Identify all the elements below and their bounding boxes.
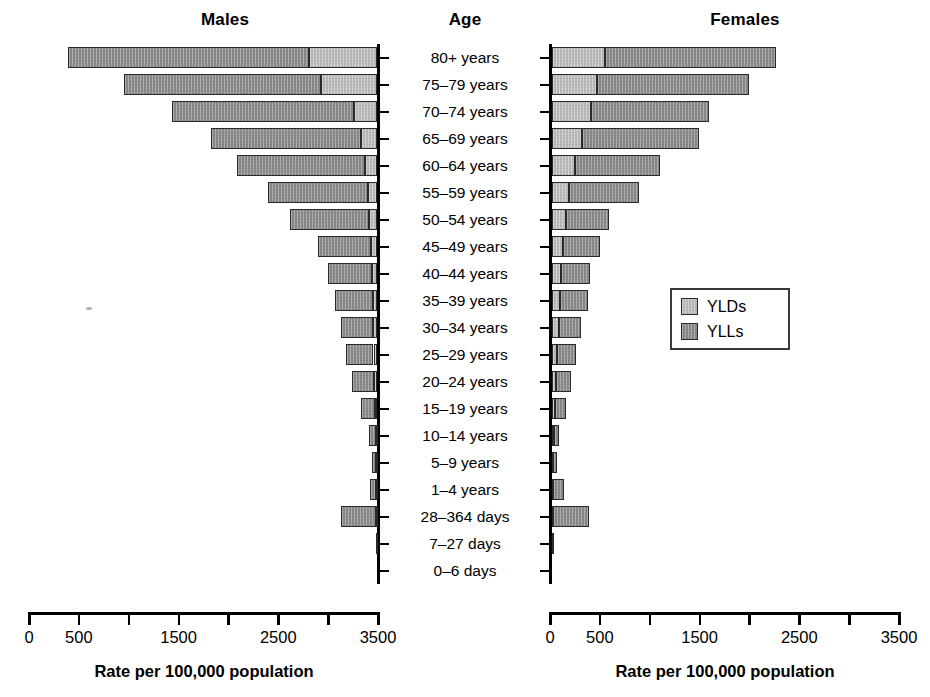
males-axis-tick-label: 2500 [243, 628, 313, 647]
age-group-label: 7–27 days [381, 530, 549, 557]
males-bar-segment-ylls [369, 425, 376, 446]
age-group-label: 1–4 years [381, 476, 549, 503]
males-bar-row [28, 503, 380, 530]
males-bar-segment-ylds [365, 155, 377, 176]
females-bar-segment-ylls [554, 425, 559, 446]
age-category-labels: 80+ years75–79 years70–74 years65–69 yea… [381, 44, 549, 584]
males-bar-row [28, 233, 380, 260]
males-bar-segment-ylls [237, 155, 365, 176]
males-bar-segment-ylds [376, 479, 378, 500]
males-bar-panel [28, 44, 380, 584]
males-bar-segment-ylls [335, 290, 373, 311]
females-bar-row [549, 233, 901, 260]
legend-swatch-ylls-icon [681, 323, 698, 340]
males-bar-row [28, 260, 380, 287]
age-group-label: 25–29 years [381, 341, 549, 368]
females-bar-segment-ylls [553, 452, 556, 473]
females-axis-tick [549, 612, 552, 625]
males-bar-segment-ylds [373, 317, 377, 338]
males-bar-segment-ylds [376, 425, 378, 446]
females-axis-tick [848, 612, 851, 625]
females-category-tick [540, 219, 549, 222]
males-bar-segment-ylls [290, 209, 369, 230]
females-bar-segment-ylls [553, 506, 589, 527]
males-bar-segment-ylls [328, 263, 372, 284]
females-category-tick [540, 84, 549, 87]
females-category-tick [540, 462, 549, 465]
males-axis-tick [128, 612, 131, 625]
females-bar-row [549, 368, 901, 395]
legend-label-ylls: YLLs [707, 321, 743, 343]
females-category-tick [540, 273, 549, 276]
males-bar-segment-ylds [309, 47, 377, 68]
males-bar-segment-ylds [373, 290, 377, 311]
females-bar-segment-ylls [557, 344, 576, 365]
males-axis-tick [277, 612, 280, 625]
males-value-axis: 3500250015005000 [28, 612, 380, 630]
males-bar-segment-ylls [361, 398, 375, 419]
legend-label-ylds: YLDs [707, 296, 746, 318]
males-bar-row [28, 71, 380, 98]
females-bar-segment-ylls [566, 209, 609, 230]
males-bar-segment-ylls [172, 101, 354, 122]
females-bar-segment-ylds [552, 101, 591, 122]
females-bar-segment-ylls [552, 533, 554, 554]
females-bar-segment-ylls [563, 236, 600, 257]
males-bar-segment-ylds [374, 344, 377, 365]
females-bar-segment-ylds [552, 263, 561, 284]
males-bar-row [28, 476, 380, 503]
females-bar-segment-ylls [591, 101, 709, 122]
males-bar-segment-ylds [369, 209, 377, 230]
females-bar-segment-ylds [552, 209, 566, 230]
females-category-tick [540, 57, 549, 60]
females-bar-row [549, 206, 901, 233]
males-bar-segment-ylds [354, 101, 377, 122]
males-bar-segment-ylds [376, 506, 378, 527]
age-group-label: 80+ years [381, 44, 549, 71]
males-bar-segment-ylds [375, 398, 377, 419]
legend: YLDs YLLs [670, 288, 790, 350]
males-bar-segment-ylls [352, 371, 374, 392]
females-bar-row [549, 476, 901, 503]
males-bar-row [28, 206, 380, 233]
males-bar-row [28, 368, 380, 395]
females-bar-segment-ylls [559, 317, 581, 338]
males-axis-tick [327, 612, 330, 625]
females-bar-segment-ylls [560, 290, 588, 311]
males-bar-segment-ylds [372, 263, 377, 284]
females-bar-segment-ylds [552, 182, 569, 203]
males-bar-row [28, 341, 380, 368]
males-bar-segment-ylds [371, 236, 377, 257]
females-category-tick [540, 300, 549, 303]
age-group-label: 0–6 days [381, 557, 549, 584]
females-panel-title: Females [645, 10, 845, 30]
females-category-tick [540, 516, 549, 519]
females-axis-tick [898, 612, 901, 625]
females-axis-caption: Rate per 100,000 population [549, 662, 901, 681]
females-bar-segment-ylls [575, 155, 659, 176]
females-category-tick [540, 138, 549, 141]
males-axis-tick [178, 612, 181, 625]
females-axis-tick-label: 3500 [864, 628, 930, 647]
females-bar-row [549, 71, 901, 98]
age-column-title: Age [395, 10, 535, 30]
females-bar-row [549, 125, 901, 152]
males-panel-title: Males [105, 10, 345, 30]
females-bar-segment-ylls [553, 479, 564, 500]
males-axis-tick-label: 3500 [343, 628, 413, 647]
females-category-tick [540, 543, 549, 546]
males-axis-tick [28, 612, 31, 625]
males-axis-tick-label: 0 [0, 628, 64, 647]
males-axis-tick [78, 612, 81, 625]
males-bar-row [28, 449, 380, 476]
males-bar-segment-ylls [376, 533, 378, 554]
females-bar-row [549, 557, 901, 584]
males-bar-row [28, 44, 380, 71]
females-axis-tick [798, 612, 801, 625]
age-group-label: 60–64 years [381, 152, 549, 179]
males-bar-segment-ylls [68, 47, 309, 68]
age-group-label: 55–59 years [381, 179, 549, 206]
females-bar-row [549, 395, 901, 422]
males-axis-caption: Rate per 100,000 population [28, 662, 380, 681]
females-bar-segment-ylls [597, 74, 749, 95]
